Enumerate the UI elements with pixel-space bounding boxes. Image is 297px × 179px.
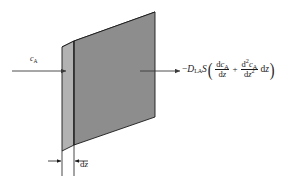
slab-drawing <box>0 0 297 179</box>
second-derivative-num-sup: 2 <box>246 57 249 64</box>
flux-plus-sign: + <box>232 65 237 74</box>
flux-diffusivity-symbol: D <box>187 65 194 75</box>
outlet-flux-expression: −DLAS( dcA dz + d2cA dz2 dz) <box>182 60 276 79</box>
thickness-z: z <box>85 159 89 169</box>
diffusion-slab-figure: cA dz −DLAS( dcA dz + d2cA dz2 dz) <box>0 0 297 179</box>
second-derivative-den-z: z <box>248 69 251 79</box>
first-derivative-fraction: dcA dz <box>215 60 229 79</box>
flux-trailing-dz: dz <box>260 65 268 75</box>
second-derivative-fraction: d2cA dz2 <box>241 60 258 79</box>
second-derivative-denominator: dz2 <box>243 70 256 79</box>
first-derivative-denominator: dz <box>218 70 228 79</box>
slab-front-face <box>74 12 155 145</box>
flux-open-paren: ( <box>208 62 213 77</box>
slab-side-face <box>62 41 74 151</box>
flux-area-symbol: S <box>202 65 207 75</box>
inlet-concentration-subscript: A <box>34 58 38 64</box>
thickness-label: dz <box>80 160 88 169</box>
flux-diffusivity-subscript: LA <box>194 68 202 74</box>
first-derivative-den-z: z <box>223 69 226 79</box>
first-derivative-num-sub: A <box>224 63 228 70</box>
flux-trailing-z: z <box>265 64 269 74</box>
inlet-concentration-label: cA <box>30 55 38 63</box>
second-derivative-den-sup: 2 <box>252 67 255 74</box>
flux-close-paren: ) <box>270 62 275 77</box>
